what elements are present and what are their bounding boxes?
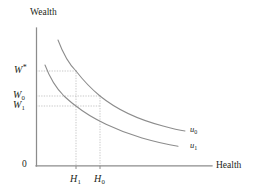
curve-label-u1-sub: 1: [194, 145, 197, 151]
curve-u0: [58, 40, 185, 131]
curve-label-u0-sub: 0: [194, 129, 197, 135]
origin-label: 0: [22, 160, 27, 170]
y-tick-base-w-star: W: [14, 64, 22, 75]
x-tick-sub-h-zero: 0: [101, 178, 104, 185]
axis-lines: [36, 28, 212, 166]
x-tick-sub-h-one: 1: [77, 178, 80, 185]
y-tick-base-w-one: W: [13, 99, 21, 110]
curve-label-u0: u0: [190, 125, 197, 134]
x-axis-title: Health: [216, 161, 241, 171]
indifference-curves: [45, 40, 185, 146]
tick-marks: [76, 166, 100, 169]
y-tick-label-w-star: W*: [14, 65, 26, 75]
y-tick-label-w-one: W1: [13, 100, 25, 110]
reference-lines: [36, 70, 101, 166]
curve-label-u1: u1: [190, 141, 197, 150]
y-tick-sub-w-one: 1: [22, 104, 25, 111]
y-tick-sup-w-star: *: [23, 63, 27, 72]
y-axis-title: Wealth: [30, 8, 57, 18]
indifference-curve-figure: Wealth Health 0 W* W0 W1 H1 H0 u0 u1: [0, 0, 255, 194]
x-tick-label-h-one: H1: [70, 174, 81, 184]
x-tick-label-h-zero: H0: [94, 174, 105, 184]
